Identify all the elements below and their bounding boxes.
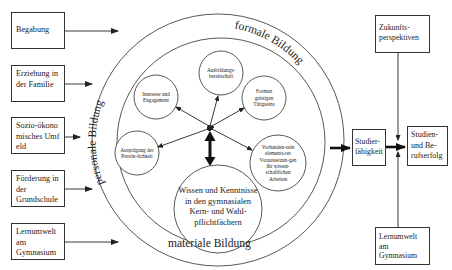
circle-label: Ausprägung der Persön-lichkeit bbox=[119, 147, 155, 160]
box-label: Lernumwelt am Gymnasium bbox=[379, 232, 417, 260]
output-box-lernumwelt: Lernumwelt am Gymnasium bbox=[375, 227, 430, 265]
box-label: Studien- und Be-rufserfolg bbox=[411, 130, 443, 160]
input-box-foerderung: Förderung in der Grundschule bbox=[11, 170, 65, 207]
input-label: Begabung bbox=[16, 25, 49, 36]
input-label: Förderung in der Grundschule bbox=[16, 174, 59, 204]
materiale-bildung-label: materiale Bildung bbox=[168, 237, 251, 249]
box-label: Zukunfts-perspektiven bbox=[379, 23, 419, 42]
circle-label: Vorhanden-sein elementa-rer Voraussetzun… bbox=[256, 144, 300, 182]
input-box-erziehung: Erziehung in der Familie bbox=[11, 65, 65, 102]
circle-label: Formen geistigen Tätigseins bbox=[246, 88, 282, 107]
input-label: Erziehung in der Familie bbox=[16, 69, 58, 89]
input-box-lernumwelt-left: Lernumwelt am Gymnasium bbox=[11, 223, 65, 260]
circle-label: Ausbildungs-bereitschaft bbox=[201, 67, 241, 80]
text-interesse: Interesse und Engagement bbox=[138, 85, 174, 109]
text-formen: Formen geistigen Tätigseins bbox=[246, 86, 282, 110]
text-ausbildung: Ausbildungs-bereitschaft bbox=[201, 63, 241, 83]
output-box-erfolg: Studien- und Be-rufserfolg bbox=[407, 126, 448, 166]
output-box-studierfaehigkeit: Studier-fähigkeit bbox=[352, 129, 386, 166]
input-box-begabung: Begabung bbox=[11, 12, 65, 49]
input-label: Sozio-ökonomisches Umfeld bbox=[16, 121, 59, 151]
ring-label: materiale Bildung bbox=[168, 237, 251, 249]
text-wissen: Wissen und Kenntnisse in den gymnasialen… bbox=[178, 176, 258, 236]
personale-bildung-label: personale Bildung bbox=[86, 98, 107, 187]
output-box-zukunft: Zukunfts-perspektiven bbox=[375, 15, 430, 53]
circle-label: Interesse und Engagement bbox=[138, 91, 174, 104]
text-auspraegung: Ausprägung der Persön-lichkeit bbox=[119, 141, 155, 165]
input-label: Lernumwelt am Gymnasium bbox=[16, 227, 56, 257]
bold-double-arrow bbox=[205, 131, 216, 166]
box-label: Studier-fähigkeit bbox=[355, 137, 383, 156]
input-box-sozio: Sozio-ökonomisches Umfeld bbox=[11, 117, 65, 154]
circle-label: Wissen und Kenntnisse in den gymnasialen… bbox=[178, 185, 258, 227]
text-vorhandensein: Vorhanden-sein elementa-rer Voraussetzun… bbox=[256, 142, 300, 184]
